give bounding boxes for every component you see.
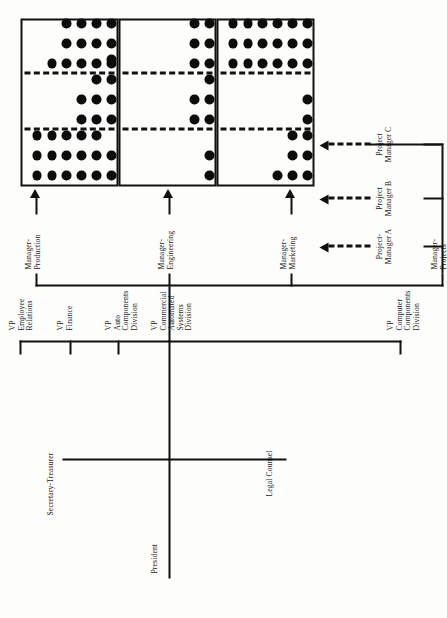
matrix-dot xyxy=(76,131,86,141)
matrix-dot xyxy=(61,151,71,161)
matrix-dot xyxy=(302,171,312,181)
matrix-dot xyxy=(287,151,297,161)
matrix-dot xyxy=(76,151,86,161)
matrix-dot xyxy=(76,171,86,181)
matrix-dot xyxy=(287,131,297,141)
matrix-dot xyxy=(76,95,86,105)
matrix-dot xyxy=(287,59,297,69)
column-divider-2-2 xyxy=(220,71,310,74)
matrix-dot xyxy=(302,115,312,125)
matrix-dot xyxy=(47,171,57,181)
matrix-dot xyxy=(106,59,116,69)
matrix-dot xyxy=(61,19,71,29)
matrix-dot xyxy=(228,59,238,69)
column-divider-0-1 xyxy=(24,127,114,130)
matrix-dot xyxy=(91,19,101,29)
matrix-dot xyxy=(287,39,297,49)
matrix-dot xyxy=(189,95,199,105)
matrix-dot xyxy=(47,151,57,161)
matrix-panel-manager-engineering xyxy=(118,18,216,186)
matrix-dot xyxy=(106,95,116,105)
matrix-dot xyxy=(106,171,116,181)
column-divider-0-2 xyxy=(24,71,114,74)
matrix-dot xyxy=(91,59,101,69)
matrix-dot xyxy=(272,19,282,29)
matrix-dot xyxy=(189,59,199,69)
matrix-dot xyxy=(91,171,101,181)
matrix-dot xyxy=(243,59,253,69)
matrix-dot xyxy=(61,131,71,141)
column-divider-1-1 xyxy=(122,127,212,130)
matrix-dot xyxy=(76,59,86,69)
matrix-dot xyxy=(272,171,282,181)
matrix-dot xyxy=(204,75,214,85)
matrix-dot xyxy=(204,59,214,69)
matrix-dot xyxy=(91,75,101,85)
matrix-dot xyxy=(61,39,71,49)
matrix-dot xyxy=(47,59,57,69)
column-divider-1-2 xyxy=(122,71,212,74)
matrix-dot xyxy=(61,171,71,181)
matrix-dot xyxy=(106,115,116,125)
matrix-dot xyxy=(204,171,214,181)
matrix-dot xyxy=(189,39,199,49)
matrix-dot xyxy=(257,39,267,49)
column-divider-2-1 xyxy=(220,127,310,130)
matrix-dot xyxy=(302,19,312,29)
matrix-dot xyxy=(272,59,282,69)
matrix-dot xyxy=(106,19,116,29)
matrix-dot xyxy=(61,59,71,69)
matrix-dot xyxy=(32,171,42,181)
matrix-dot xyxy=(302,59,312,69)
matrix-dot xyxy=(76,115,86,125)
matrix-dot xyxy=(189,19,199,29)
matrix-dot xyxy=(91,95,101,105)
matrix-dot xyxy=(228,39,238,49)
matrix-dot xyxy=(204,95,214,105)
matrix-dot xyxy=(302,95,312,105)
matrix-dot xyxy=(76,39,86,49)
matrix-dot xyxy=(272,39,282,49)
matrix-dot xyxy=(106,39,116,49)
matrix-dot xyxy=(47,131,57,141)
matrix-dot xyxy=(106,75,116,85)
matrix-dot xyxy=(302,131,312,141)
matrix-dot xyxy=(204,115,214,125)
matrix-dot xyxy=(204,151,214,161)
matrix-dot xyxy=(287,171,297,181)
matrix-dot xyxy=(228,19,238,29)
matrix-dot xyxy=(204,19,214,29)
matrix-dot xyxy=(204,39,214,49)
matrix-dot xyxy=(257,19,267,29)
matrix-dot xyxy=(287,19,297,29)
matrix-dot xyxy=(302,39,312,49)
matrix-dot xyxy=(76,19,86,29)
matrix-dot xyxy=(257,59,267,69)
matrix-dot xyxy=(91,115,101,125)
matrix-dot xyxy=(243,19,253,29)
matrix-dot xyxy=(189,115,199,125)
matrix-dot xyxy=(32,131,42,141)
matrix-dot xyxy=(106,151,116,161)
matrix-dot xyxy=(243,39,253,49)
matrix-dot xyxy=(32,151,42,161)
matrix-dot xyxy=(91,151,101,161)
matrix-dot xyxy=(91,39,101,49)
matrix-dot xyxy=(91,131,101,141)
matrix-dot xyxy=(302,151,312,161)
